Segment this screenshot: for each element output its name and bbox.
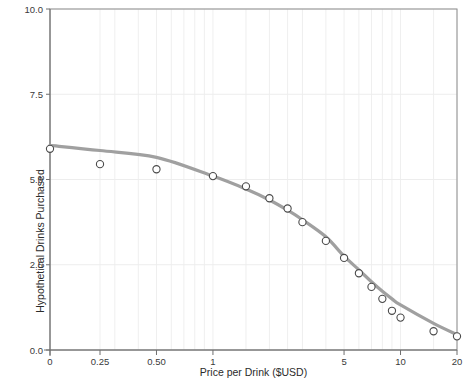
data-point-marker <box>96 161 103 168</box>
data-point-marker <box>355 270 362 277</box>
y-axis-tick-label: 0.0 <box>30 345 43 356</box>
data-points-layer <box>46 145 460 340</box>
y-axis: 0.02.55.07.510.0 <box>25 4 51 357</box>
x-axis-tick-label: 0 <box>47 356 52 367</box>
data-point-marker <box>153 166 160 173</box>
data-point-marker <box>266 195 273 202</box>
x-axis-tick-label: 0.25 <box>91 356 110 367</box>
data-point-marker <box>453 333 460 340</box>
data-point-marker <box>388 307 395 314</box>
x-axis-tick-label: 20 <box>452 356 463 367</box>
x-axis-tick-label: 1 <box>210 356 215 367</box>
data-point-marker <box>322 237 329 244</box>
data-point-marker <box>299 219 306 226</box>
data-point-marker <box>397 314 404 321</box>
data-point-marker <box>379 295 386 302</box>
x-axis-tick-label: 0.50 <box>147 356 166 367</box>
data-point-marker <box>430 328 437 335</box>
x-axis: 00.250.50151020 <box>44 350 462 367</box>
data-point-marker <box>284 205 291 212</box>
plot-canvas: 0.02.55.07.510.0 00.250.50151020 <box>0 0 466 390</box>
x-axis-tick-label: 5 <box>341 356 346 367</box>
x-axis-tick-label: 10 <box>395 356 406 367</box>
y-axis-tick-label: 5.0 <box>30 174 43 185</box>
data-point-marker <box>368 283 375 290</box>
data-point-marker <box>209 172 216 179</box>
y-axis-tick-label: 2.5 <box>30 259 43 270</box>
data-point-marker <box>46 145 53 152</box>
demand-curve-figure: Hypothetical Drinks Purchased Price per … <box>0 0 466 390</box>
grid-layer <box>50 9 457 350</box>
data-point-marker <box>242 183 249 190</box>
y-axis-tick-label: 7.5 <box>30 89 43 100</box>
data-point-marker <box>340 254 347 261</box>
fitted-curve <box>50 145 457 334</box>
y-axis-tick-label: 10.0 <box>25 4 44 15</box>
